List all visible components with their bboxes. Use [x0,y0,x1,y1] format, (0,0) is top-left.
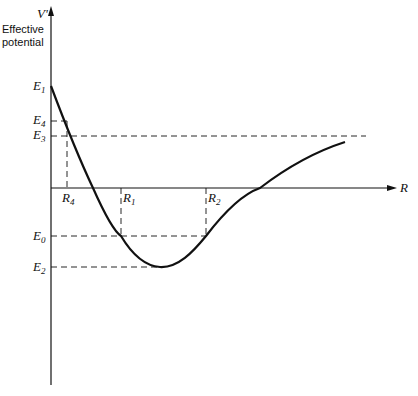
y-axis-arrow-icon [48,6,54,16]
label-r1: R1 [122,190,135,207]
x-axis-label: R [399,180,408,195]
label-r4: R4 [61,190,75,207]
effective-potential-diagram: V' Effective potential R E1 E4 E3 E0 E2 … [0,0,418,396]
y-axis-label: V' [37,6,48,21]
y-axis-title-line2: potential [2,36,44,48]
label-e1: E1 [32,78,45,95]
y-axis-title-line1: Effective [2,23,44,35]
label-e2: E2 [32,259,46,276]
label-e0: E0 [32,228,46,245]
potential-curve [51,86,345,267]
label-e3: E3 [32,127,46,144]
x-axis-arrow-icon [387,185,397,191]
label-r2: R2 [207,190,221,207]
